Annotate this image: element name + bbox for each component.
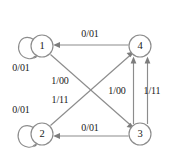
- transition-label-1-self-loop: 0/01: [12, 63, 29, 73]
- state-diagram-canvas: 1 4 2 3 0/01 0/01 0/01 0/01 1/00 1/11 1/…: [0, 0, 173, 158]
- transition-label-3-to-2: 0/01: [81, 123, 98, 133]
- transition-label-2-to-4: 1/11: [51, 95, 68, 105]
- transition-label-2-self-loop: 0/01: [12, 105, 29, 115]
- transition-label-4-to-1: 0/01: [81, 29, 98, 39]
- edge-3-to-2: [53, 133, 128, 139]
- transition-label-1-to-3: 1/00: [51, 76, 68, 86]
- edge-4-to-1: [53, 42, 128, 48]
- state-label-2: 2: [39, 129, 44, 140]
- transition-label-3-to-4-outer: 1/11: [143, 86, 160, 96]
- transition-label-3-to-4-inner: 1/00: [108, 86, 125, 96]
- state-diagram-graphics: [0, 0, 173, 158]
- state-label-4: 4: [137, 41, 142, 52]
- state-label-3: 3: [137, 129, 142, 140]
- state-label-1: 1: [39, 41, 44, 52]
- edge-3-to-4-inner: [131, 57, 137, 124]
